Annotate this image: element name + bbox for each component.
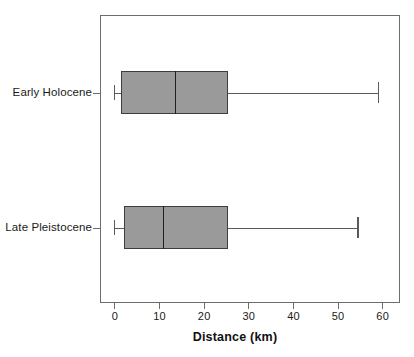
x-tick-label-0: 0 xyxy=(112,310,118,322)
boxplot-figure: Early Holocene Late Pleistocene 0 10 xyxy=(0,0,414,357)
x-axis-title: Distance (km) xyxy=(0,330,414,344)
whisker-line-high-late-pleistocene xyxy=(228,228,358,229)
x-tick-label-20: 20 xyxy=(198,310,211,322)
whisker-line-low-late-pleistocene xyxy=(114,228,124,229)
whisker-cap-low-late-pleistocene xyxy=(114,220,115,235)
box-group-late-pleistocene xyxy=(0,0,414,357)
x-axis-title-text: Distance (km) xyxy=(193,330,278,344)
median-line-late-pleistocene xyxy=(163,206,165,249)
x-tick-20 xyxy=(204,303,205,309)
whisker-cap-high-late-pleistocene xyxy=(357,217,358,238)
x-tick-label-50: 50 xyxy=(332,310,345,322)
x-tick-60 xyxy=(382,303,383,309)
x-tick-label-60: 60 xyxy=(376,310,389,322)
x-tick-0 xyxy=(114,303,115,309)
x-tick-label-30: 30 xyxy=(242,310,255,322)
x-tick-30 xyxy=(248,303,249,309)
x-tick-50 xyxy=(338,303,339,309)
x-tick-label-10: 10 xyxy=(153,310,166,322)
box-late-pleistocene xyxy=(124,206,228,249)
x-tick-40 xyxy=(293,303,294,309)
x-tick-10 xyxy=(159,303,160,309)
x-tick-label-40: 40 xyxy=(287,310,300,322)
